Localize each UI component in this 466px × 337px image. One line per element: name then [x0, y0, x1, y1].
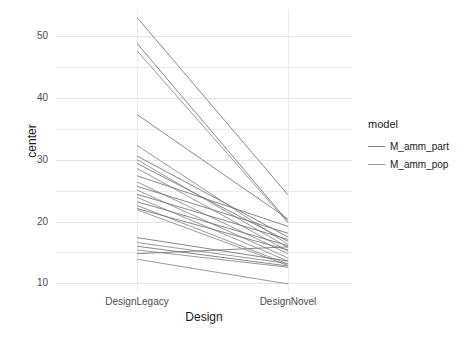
- y-tick-label: 50: [0, 31, 48, 41]
- y-tick-label: 20: [0, 217, 48, 227]
- legend: model M_amm_part M_amm_pop: [368, 118, 464, 174]
- chart-root: 1020304050 DesignLegacyDesignNovel cente…: [0, 0, 466, 337]
- slopegraph-lines: [56, 10, 352, 292]
- legend-label-m-amm-pop: M_amm_pop: [390, 159, 448, 170]
- x-axis-title: Design: [56, 310, 352, 324]
- y-axis-title: center: [25, 101, 39, 181]
- legend-label-m-amm-part: M_amm_part: [390, 141, 449, 152]
- legend-line-swatch-part: [368, 141, 385, 152]
- slope-line: [137, 202, 288, 246]
- legend-item-m-amm-part[interactable]: M_amm_part: [368, 138, 464, 154]
- slope-line: [137, 186, 288, 233]
- y-tick-label: 10: [0, 278, 48, 288]
- x-tick-label: DesignLegacy: [82, 296, 192, 307]
- y-tick-label: 40: [0, 93, 48, 103]
- legend-line-swatch-pop: [368, 159, 385, 170]
- plot-panel: [56, 10, 352, 292]
- legend-title: model: [368, 118, 464, 130]
- legend-item-m-amm-pop[interactable]: M_amm_pop: [368, 156, 464, 172]
- y-tick-label: 30: [0, 155, 48, 165]
- x-tick-label: DesignNovel: [233, 296, 343, 307]
